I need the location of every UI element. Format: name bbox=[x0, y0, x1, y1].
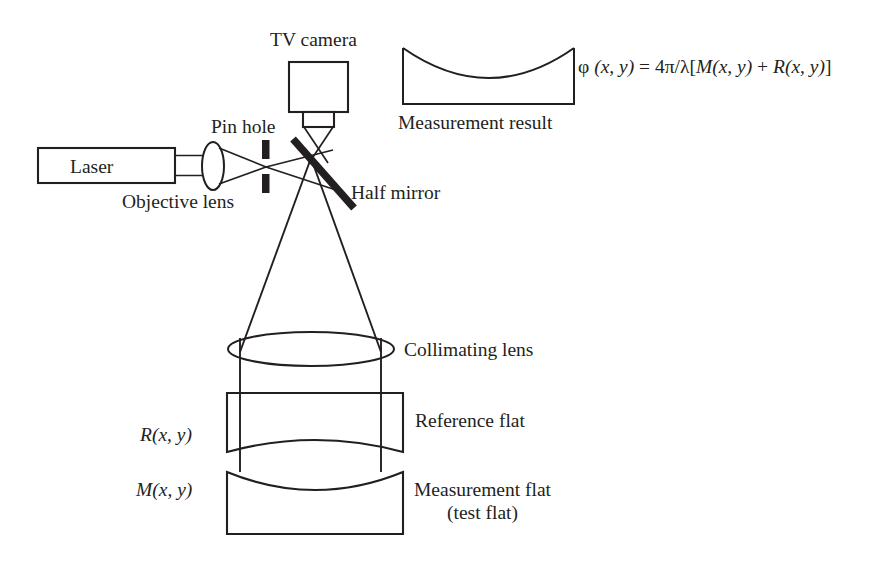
phase-formula: φ (x, y) = 4π/λ[M(x, y) + R(x, y)] bbox=[578, 56, 831, 78]
formula-coefficient: 4π/λ bbox=[655, 56, 689, 77]
measurement-flat-label: Measurement flat (test flat) bbox=[414, 478, 551, 524]
pin-hole-lower-bar bbox=[262, 174, 270, 193]
half-mirror bbox=[293, 139, 354, 208]
reference-flat-plate bbox=[227, 393, 403, 452]
formula-term-r: R bbox=[773, 56, 785, 77]
reference-flat-label: Reference flat bbox=[415, 409, 525, 432]
formula-phi: φ bbox=[578, 56, 589, 77]
collimating-lens-label: Collimating lens bbox=[404, 338, 533, 361]
tv-camera-label: TV camera bbox=[270, 28, 357, 51]
formula-bracket-close: ] bbox=[825, 56, 832, 77]
pin-hole-label: Pin hole bbox=[211, 115, 275, 138]
objective-converging-ray-bottom bbox=[219, 167, 266, 184]
figure-canvas: TV camera Pin hole Laser Objective lens … bbox=[0, 0, 880, 567]
collimating-lens bbox=[228, 332, 394, 366]
reference-wavefront-label: R(x, y) bbox=[140, 423, 192, 446]
objective-converging-ray-top bbox=[219, 148, 266, 167]
tv-camera-lens-barrel bbox=[303, 112, 334, 127]
half-mirror-label: Half mirror bbox=[351, 181, 440, 204]
measurement-wavefront-label: M(x, y) bbox=[136, 478, 192, 501]
main-beam-edge-left bbox=[240, 158, 311, 352]
tv-camera-body bbox=[289, 62, 348, 112]
laser-label: Laser bbox=[70, 155, 113, 178]
formula-equals: = bbox=[639, 56, 650, 77]
formula-plus: + bbox=[757, 56, 768, 77]
pinhole-diverging-ray-top bbox=[266, 150, 333, 167]
measurement-flat-label-line1: Measurement flat bbox=[414, 478, 551, 501]
measurement-flat-plate bbox=[227, 472, 403, 534]
formula-phi-args: (x, y) bbox=[594, 56, 634, 77]
measurement-result-curve bbox=[403, 48, 574, 78]
pin-hole-upper-bar bbox=[262, 140, 270, 159]
formula-term-m: M bbox=[696, 56, 712, 77]
measurement-flat-label-line2: (test flat) bbox=[414, 501, 551, 524]
objective-lens-label: Objective lens bbox=[122, 190, 234, 213]
measurement-result-label: Measurement result bbox=[398, 111, 552, 134]
formula-term-m-args: (x, y) bbox=[712, 56, 752, 77]
measurement-result-box bbox=[403, 48, 574, 104]
formula-term-r-args: (x, y) bbox=[785, 56, 825, 77]
